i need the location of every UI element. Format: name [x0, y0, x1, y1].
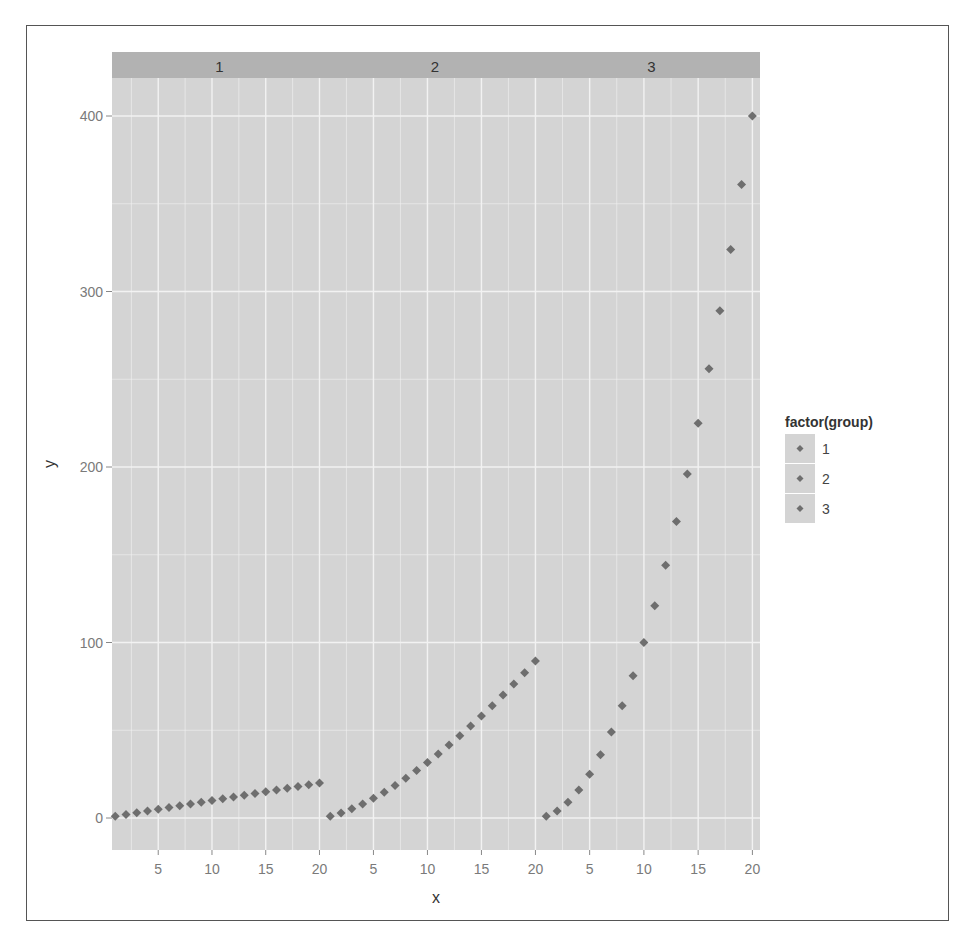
facet-panel-1: 15101520 [111, 52, 328, 877]
y-tick-label: 200 [80, 459, 104, 475]
x-tick-label: 15 [690, 861, 706, 877]
x-tick-label: 20 [312, 861, 328, 877]
legend-label: 2 [822, 471, 830, 487]
facet-strip-label: 2 [431, 58, 439, 75]
facet-panel-3: 35101520 [542, 52, 761, 877]
y-tick-label: 0 [95, 810, 103, 826]
panel-background [327, 78, 543, 850]
x-tick-label: 5 [154, 861, 162, 877]
legend: factor(group)123 [785, 414, 873, 523]
y-tick-label: 100 [80, 635, 104, 651]
x-tick-label: 5 [370, 861, 378, 877]
y-axis-title: y [41, 460, 58, 468]
panel-background [543, 78, 760, 850]
faceted-scatter-chart: 1510152025101520351015200100200300400xyf… [0, 0, 967, 943]
legend-title: factor(group) [785, 414, 873, 430]
legend-label: 3 [822, 501, 830, 517]
x-tick-label: 10 [636, 861, 652, 877]
legend-label: 1 [822, 441, 830, 457]
x-tick-label: 20 [745, 861, 761, 877]
x-tick-label: 15 [474, 861, 490, 877]
x-tick-label: 20 [528, 861, 544, 877]
x-tick-label: 5 [586, 861, 594, 877]
facet-strip-label: 3 [647, 58, 655, 75]
facet-panel-2: 25101520 [326, 52, 544, 877]
x-tick-label: 10 [420, 861, 436, 877]
x-axis-title: x [432, 889, 440, 906]
x-tick-label: 10 [204, 861, 220, 877]
panel-background [112, 78, 327, 850]
y-tick-label: 400 [80, 108, 104, 124]
y-tick-label: 300 [80, 284, 104, 300]
facet-strip-label: 1 [215, 58, 223, 75]
x-tick-label: 15 [258, 861, 274, 877]
